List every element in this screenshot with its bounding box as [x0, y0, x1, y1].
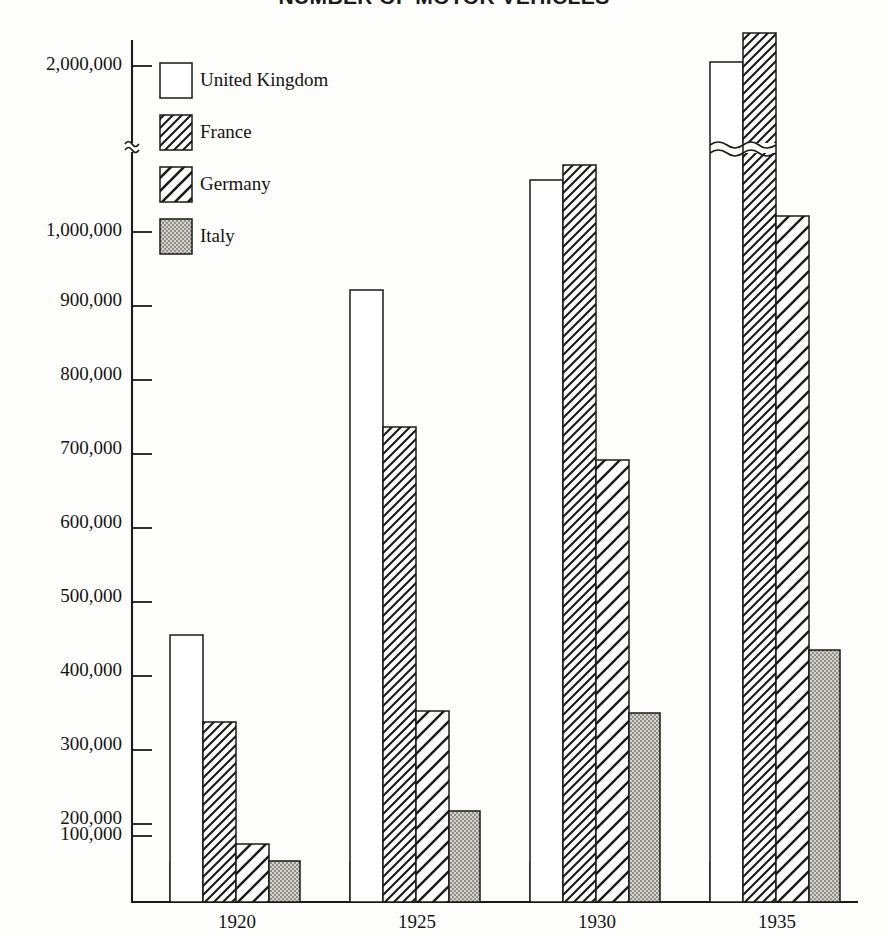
bar-1935-united-kingdom [710, 62, 743, 902]
x-tick-label-1935: 1935 [758, 911, 796, 932]
bar-1925-italy [449, 811, 480, 902]
bar-1925-united-kingdom [350, 290, 383, 902]
legend-item-italy[interactable]: Italy [160, 219, 235, 254]
bar-1930-italy [629, 713, 660, 902]
bar-1930-united-kingdom [530, 180, 563, 902]
y-tick-label-1000000: 1,000,000 [46, 219, 122, 240]
legend-label-united-kingdom: United Kingdom [200, 69, 328, 90]
bar-1930-germany [596, 460, 629, 902]
legend-label-germany: Germany [200, 173, 271, 194]
legend-label-italy: Italy [200, 225, 235, 246]
legend-swatch-germany [160, 167, 192, 202]
x-tick-label-1930: 1930 [578, 911, 616, 932]
bar-group-1935 [708, 33, 840, 902]
bar-1935-france [743, 33, 776, 902]
x-tick-label-1920: 1920 [218, 911, 256, 932]
y-tick-label-900000: 900,000 [60, 289, 122, 310]
chart-container: NUMBER OF MOTOR VEHICLES 2,000,000 1,000… [0, 0, 888, 936]
y-tick-label-300000: 300,000 [60, 733, 122, 754]
bar-1920-france [203, 722, 236, 902]
bar-1935-germany [776, 216, 809, 902]
bar-group-1930 [530, 165, 660, 902]
chart-title: NUMBER OF MOTOR VEHICLES [278, 0, 609, 8]
legend-label-france: France [200, 121, 252, 142]
y-tick-label-500000: 500,000 [60, 585, 122, 606]
y-tick-label-100000: 100,000 [60, 823, 122, 844]
legend-swatch-united-kingdom [160, 63, 192, 98]
bar-1925-france [383, 427, 416, 902]
y-tick-label-2000000: 2,000,000 [46, 53, 122, 74]
bar-group-1920 [170, 635, 300, 902]
bar-1920-united-kingdom [170, 635, 203, 902]
y-tick-label-800000: 800,000 [60, 363, 122, 384]
legend-item-united-kingdom[interactable]: United Kingdom [160, 63, 328, 98]
axis-break-marker [125, 148, 139, 153]
legend-item-germany[interactable]: Germany [160, 167, 271, 202]
bar-1920-germany [236, 844, 269, 902]
bar-group-1925 [350, 290, 480, 902]
y-tick-label-700000: 700,000 [60, 437, 122, 458]
y-tick-label-600000: 600,000 [60, 511, 122, 532]
bar-1935-italy [809, 650, 840, 902]
legend-item-france[interactable]: France [160, 115, 252, 150]
y-axis: 2,000,000 1,000,000 900,000 800,000 700,… [46, 40, 152, 903]
bar-1930-france [563, 165, 596, 902]
bar-1920-italy [269, 861, 300, 902]
legend: United Kingdom France Germany Italy [160, 63, 328, 254]
bar-1925-germany [416, 711, 449, 902]
y-tick-label-400000: 400,000 [60, 659, 122, 680]
legend-swatch-italy [160, 219, 192, 254]
x-tick-label-1925: 1925 [398, 911, 436, 932]
legend-swatch-france [160, 115, 192, 150]
